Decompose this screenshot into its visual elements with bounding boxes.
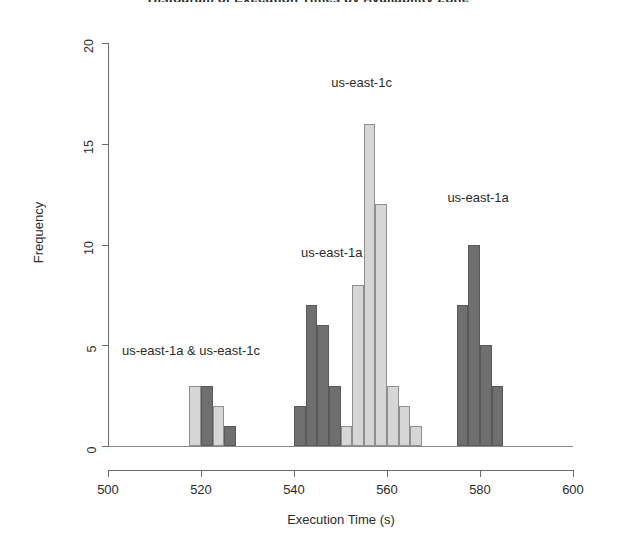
histogram-bar: [387, 386, 399, 446]
histogram-bar: [457, 305, 469, 446]
histogram-bar: [399, 406, 411, 446]
histogram-bar: [410, 426, 422, 446]
y-axis-line: [108, 43, 109, 447]
histogram-bar: [468, 245, 480, 447]
x-tick-label-540: 540: [271, 482, 317, 497]
histogram-bar: [306, 305, 318, 446]
histogram-bar: [213, 406, 225, 446]
x-tick-580: [480, 470, 481, 477]
plot-area: 0 5 10 15 20 Frequency us-east-1a & us-e…: [0, 0, 617, 556]
series-annotation: us-east-1a: [301, 245, 362, 260]
y-tick-label-5-text: 5: [86, 346, 100, 353]
x-axis-line: [108, 470, 574, 471]
y-tick-label-15: 15: [0, 137, 96, 155]
y-tick-label-10-text: 10: [82, 241, 96, 255]
histogram-bar: [329, 386, 341, 446]
histogram-bar: [201, 386, 213, 446]
x-tick-520: [201, 470, 202, 477]
x-tick-label-500: 500: [85, 482, 131, 497]
y-tick-label-0: 0: [0, 440, 96, 458]
histogram-bar: [341, 426, 353, 446]
y-tick-label-10: 10: [0, 238, 96, 256]
y-axis-title: Frequency: [31, 153, 46, 313]
histogram-bar: [189, 386, 201, 446]
y-tick-5: [102, 345, 108, 346]
histogram-bar: [492, 386, 504, 446]
histogram-bar: [375, 204, 387, 446]
histogram-bar: [352, 285, 364, 446]
x-tick-540: [294, 470, 295, 477]
y-tick-label-20-text: 20: [82, 39, 96, 53]
y-tick-label-15-text: 15: [82, 140, 96, 154]
y-tick-10: [102, 245, 108, 246]
series-annotation: us-east-1a: [447, 190, 508, 205]
y-tick-15: [102, 144, 108, 145]
y-tick-label-0-text: 0: [86, 447, 100, 454]
histogram-bar: [317, 325, 329, 446]
histogram-bar: [224, 426, 236, 446]
x-axis-title: Execution Time (s): [108, 512, 574, 527]
x-tick-label-600: 600: [550, 482, 596, 497]
x-tick-560: [387, 470, 388, 477]
x-tick-label-560: 560: [364, 482, 410, 497]
x-tick-label-580: 580: [457, 482, 503, 497]
series-annotation: us-east-1c: [331, 75, 392, 90]
histogram-bar: [364, 124, 376, 446]
x-tick-500: [108, 470, 109, 477]
plot-baseline: [108, 446, 573, 447]
histogram-bar: [294, 406, 306, 446]
histogram-bar: [480, 345, 492, 446]
series-annotation: us-east-1a & us-east-1c: [122, 343, 260, 358]
y-tick-20: [102, 43, 108, 44]
y-tick-label-20: 20: [0, 36, 96, 54]
histogram-figure: Histogram of Execution Times by Availabi…: [0, 0, 617, 556]
x-tick-label-520: 520: [178, 482, 224, 497]
y-tick-label-5: 5: [0, 339, 96, 357]
x-tick-600: [573, 470, 574, 477]
